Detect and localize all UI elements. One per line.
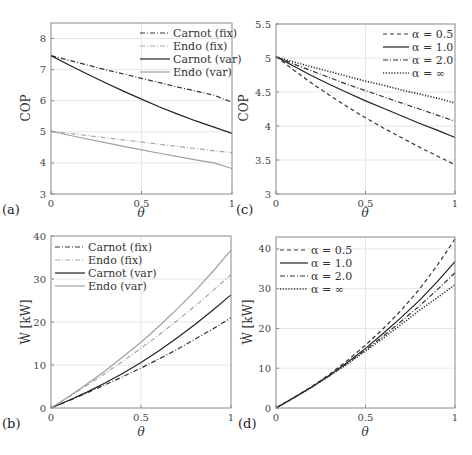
- legend: Carnot (fix)Endo (fix)Carnot (var)Endo (…: [55, 241, 156, 293]
- legend-entry: α = 2.0: [412, 54, 453, 67]
- legend-entry: α = ∞: [412, 67, 445, 80]
- x-tick-label: 0.5: [133, 412, 149, 423]
- panel-d: 01020304000.51θẆ [kW](d)α = 0.5α = 1.0α …: [238, 237, 458, 439]
- legend-entry: α = 1.0: [311, 257, 352, 270]
- y-tick-label: 5: [265, 53, 271, 64]
- y-tick-label: 3.5: [255, 155, 271, 166]
- y-tick-label: 3: [265, 189, 271, 200]
- y-tick-label: 10: [33, 360, 46, 371]
- y-axis-label: Ẇ [kW]: [240, 299, 255, 344]
- y-tick-label: 20: [33, 317, 46, 328]
- y-axis-label: Ẇ [kW]: [18, 299, 33, 344]
- panel-label: (c): [236, 202, 253, 217]
- x-axis-label: θ: [137, 425, 145, 439]
- y-tick-label: 40: [33, 231, 46, 242]
- x-tick-label: 0: [48, 198, 54, 209]
- y-axis-label: COP: [19, 94, 33, 121]
- panel-label: (b): [2, 416, 20, 431]
- x-tick-label: 0.5: [358, 412, 374, 423]
- x-tick-label: 1: [452, 412, 458, 423]
- y-tick-label: 4: [265, 121, 271, 132]
- legend-entry: α = 2.0: [311, 270, 352, 283]
- y-tick-label: 5.5: [255, 19, 271, 30]
- x-axis-label: θ: [361, 206, 369, 220]
- legend: α = 0.5α = 1.0α = 2.0α = ∞: [383, 28, 453, 80]
- legend-entry: Endo (fix): [173, 40, 227, 53]
- y-tick-label: 0: [40, 403, 46, 414]
- y-tick-label: 4.5: [255, 87, 271, 98]
- legend: Carnot (fix)Endo (fix)Carnot (var)Endo (…: [140, 27, 241, 79]
- legend-entry: α = 0.5: [412, 28, 453, 41]
- legend-entry: Carnot (var): [173, 53, 241, 66]
- legend-entry: Carnot (fix): [173, 27, 237, 40]
- x-tick-label: 0: [48, 412, 54, 423]
- legend-entry: Carnot (var): [88, 267, 156, 280]
- panel-label: (d): [238, 416, 256, 431]
- x-tick-label: 1: [228, 412, 234, 423]
- legend-entry: Endo (var): [173, 66, 232, 79]
- y-tick-label: 40: [258, 243, 271, 254]
- y-tick-label: 7: [40, 64, 46, 75]
- x-axis-label: θ: [361, 425, 369, 439]
- y-axis-label: COP: [237, 94, 251, 121]
- panel-b: 01020304000.51θẆ [kW](b)Carnot (fix)Endo…: [2, 231, 234, 440]
- y-tick-label: 20: [258, 323, 271, 334]
- x-axis-label: θ: [137, 206, 145, 220]
- legend-entry: Endo (fix): [88, 254, 142, 267]
- panel-c: 33.544.555.500.51θCOP(c)α = 0.5α = 1.0α …: [236, 19, 458, 221]
- x-tick-label: 0: [273, 198, 279, 209]
- y-tick-label: 30: [258, 283, 271, 294]
- y-tick-label: 5: [40, 126, 46, 137]
- y-tick-label: 3: [40, 189, 46, 200]
- panel-label: (a): [2, 202, 20, 217]
- x-tick-label: 1: [229, 198, 235, 209]
- figure: 34567800.51θCOP(a)Carnot (fix)Endo (fix)…: [0, 0, 472, 455]
- y-tick-label: 30: [33, 274, 46, 285]
- y-tick-label: 8: [40, 33, 46, 44]
- legend-entry: Carnot (fix): [88, 241, 152, 254]
- legend-entry: α = 0.5: [311, 244, 352, 257]
- x-tick-label: 1: [452, 198, 458, 209]
- legend-entry: α = 1.0: [412, 41, 453, 54]
- y-tick-label: 6: [40, 95, 46, 106]
- legend-entry: α = ∞: [311, 283, 344, 296]
- x-tick-label: 0: [273, 412, 279, 423]
- y-tick-label: 0: [265, 403, 271, 414]
- y-tick-label: 4: [40, 157, 46, 168]
- legend-entry: Endo (var): [88, 280, 147, 293]
- panel-a: 34567800.51θCOP(a)Carnot (fix)Endo (fix)…: [2, 23, 241, 220]
- y-tick-label: 10: [258, 363, 271, 374]
